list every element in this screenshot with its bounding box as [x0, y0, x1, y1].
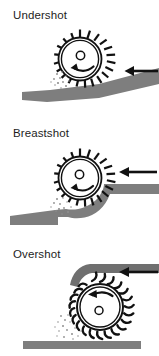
- breastshot-hub: [75, 170, 83, 178]
- breastshot-flow-arrow[interactable]: [119, 167, 157, 177]
- panel-overshot: Overshot: [0, 236, 159, 356]
- overshot-ground: [23, 341, 141, 349]
- panel-undershot: Undershot: [0, 0, 159, 118]
- overshot-figure: [0, 236, 159, 356]
- undershot-figure: [0, 0, 159, 118]
- panel-breastshot: Breastshot: [0, 118, 159, 236]
- undershot-hub: [76, 51, 84, 59]
- overshot-hub: [95, 307, 103, 315]
- breastshot-figure: [0, 118, 159, 236]
- breastshot-upper-flume: [110, 184, 159, 194]
